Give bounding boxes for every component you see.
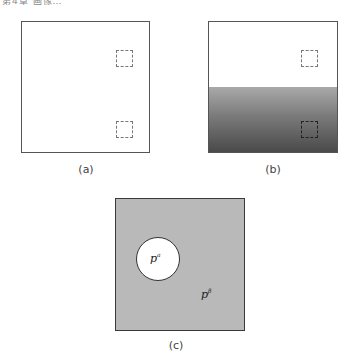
dashed-square-upper <box>301 50 318 67</box>
panel-a-uniform-image <box>21 21 150 153</box>
clipped-header-text: 第4章 画像… <box>2 0 63 7</box>
dashed-square-upper <box>116 50 133 67</box>
panel-b-gradient-image <box>208 21 338 153</box>
dashed-square-lower <box>116 121 133 138</box>
caption-b: (b) <box>265 163 281 176</box>
caption-c: (c) <box>169 339 184 352</box>
dashed-square-lower <box>301 121 318 138</box>
circle-region: pa <box>136 237 180 281</box>
gradient-region <box>209 87 337 152</box>
panel-c-region-image: pa pβ <box>115 198 245 331</box>
caption-a: (a) <box>78 163 93 176</box>
label-p-alpha: pa <box>150 251 161 265</box>
label-p-beta: pβ <box>201 287 212 301</box>
